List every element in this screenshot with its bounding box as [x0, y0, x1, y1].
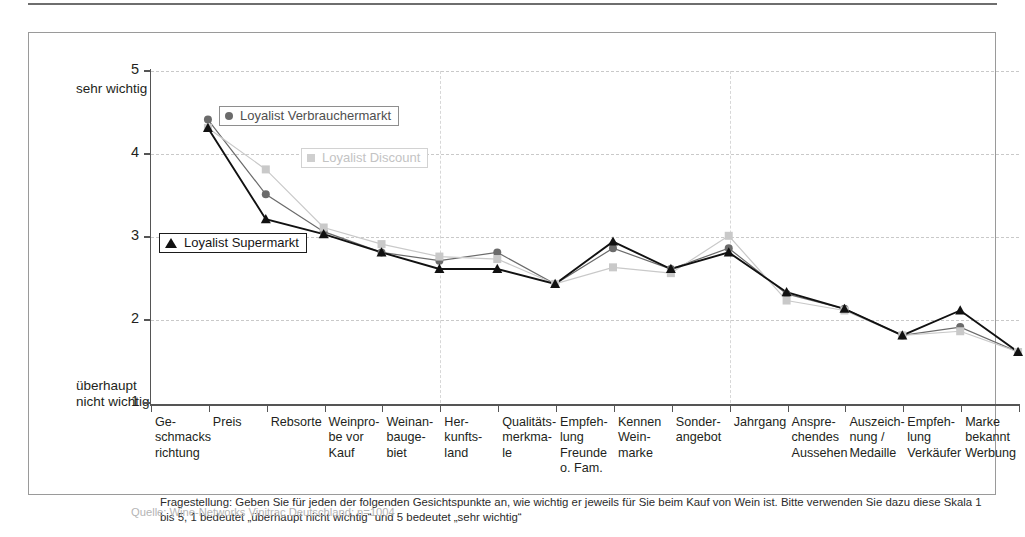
data-point-marker	[493, 255, 501, 263]
data-point-marker	[667, 269, 675, 277]
y-tick-mark	[144, 70, 151, 71]
legend-label-verbrauchermarkt: Loyalist Verbrauchermarkt	[240, 108, 391, 123]
legend-label-discount: Loyalist Discount	[322, 150, 420, 165]
figure-frame: sehr wichtig überhaupt nicht wichtig 123…	[28, 32, 996, 495]
x-tick-mark	[903, 405, 904, 412]
data-point-marker	[667, 265, 675, 273]
x-tick-mark	[556, 405, 557, 412]
square-marker-icon	[307, 154, 315, 162]
data-point-marker	[783, 290, 791, 298]
y-axis-caption-bottom: überhaupt nicht wichtig	[76, 378, 156, 409]
data-point-marker	[783, 297, 791, 305]
x-tick-mark	[209, 405, 210, 412]
gridline-vertical	[440, 71, 441, 403]
data-point-marker	[262, 190, 270, 198]
data-point-marker	[840, 307, 848, 315]
data-point-marker	[203, 123, 213, 132]
x-tick-mark	[672, 405, 673, 412]
x-tick-mark	[788, 405, 789, 412]
data-point-marker	[609, 244, 617, 252]
data-point-marker	[898, 331, 906, 339]
data-point-marker	[1014, 348, 1022, 356]
legend-item-verbrauchermarkt: Loyalist Verbrauchermarkt	[219, 106, 399, 126]
data-point-marker	[1014, 348, 1022, 356]
top-divider-rule	[28, 3, 997, 5]
legend-item-discount: Loyalist Discount	[301, 148, 428, 168]
data-point-marker	[955, 305, 965, 314]
data-point-marker	[898, 331, 906, 339]
data-point-marker	[204, 116, 212, 124]
y-tick-label: 4	[117, 144, 139, 160]
data-point-marker	[782, 287, 792, 296]
data-point-marker	[897, 330, 907, 339]
y-tick-label: 5	[117, 61, 139, 77]
y-tick-label: 1	[117, 393, 139, 409]
x-tick-mark	[845, 405, 846, 412]
x-tick-mark	[382, 405, 383, 412]
x-tick-mark	[440, 405, 441, 412]
x-tick-mark	[614, 405, 615, 412]
data-point-marker	[378, 240, 386, 248]
data-point-marker	[320, 224, 328, 232]
x-tick-mark	[267, 405, 268, 412]
triangle-marker-icon	[165, 238, 177, 248]
x-tick-mark	[151, 405, 152, 412]
x-tick-mark	[1019, 405, 1020, 412]
x-tick-mark	[325, 405, 326, 412]
y-tick-label: 3	[117, 227, 139, 243]
series-plot	[29, 33, 1025, 537]
gridline-horizontal	[151, 154, 1019, 155]
data-point-marker	[839, 304, 849, 313]
data-point-marker	[378, 248, 386, 256]
data-point-marker	[320, 228, 328, 236]
data-point-marker	[550, 279, 560, 288]
y-tick-mark	[144, 236, 151, 237]
y-tick-label: 2	[117, 310, 139, 326]
x-axis-line	[150, 404, 1020, 406]
data-point-marker	[551, 280, 559, 288]
gridline-horizontal	[151, 320, 1019, 321]
data-point-marker	[840, 305, 848, 313]
data-point-marker	[492, 264, 502, 273]
data-point-marker	[261, 214, 271, 223]
y-tick-mark	[144, 153, 151, 154]
y-axis-caption-top: sehr wichtig	[76, 81, 156, 97]
y-tick-mark	[144, 402, 151, 403]
data-point-marker	[1013, 347, 1023, 356]
gridline-vertical	[730, 71, 731, 403]
circle-marker-icon	[225, 112, 233, 120]
data-point-marker	[204, 124, 212, 132]
gridline-horizontal	[151, 71, 1019, 72]
y-tick-mark	[144, 319, 151, 320]
x-axis-category-label: Marke bekannt Werbung	[965, 415, 1025, 461]
legend-label-supermarkt: Loyalist Supermarkt	[184, 235, 299, 250]
x-tick-mark	[498, 405, 499, 412]
data-point-marker	[493, 248, 501, 256]
x-tick-mark	[730, 405, 731, 412]
data-point-marker	[956, 323, 964, 331]
data-point-marker	[262, 165, 270, 173]
legend-item-supermarkt: Loyalist Supermarkt	[159, 233, 307, 253]
data-point-marker	[956, 327, 964, 335]
source-note: Quelle: Wine-Networks Vinitrac Deutschla…	[131, 506, 831, 518]
data-point-marker	[666, 264, 676, 273]
x-tick-mark	[961, 405, 962, 412]
data-point-marker	[609, 263, 617, 271]
data-point-marker	[551, 280, 559, 288]
data-point-marker	[377, 247, 387, 256]
